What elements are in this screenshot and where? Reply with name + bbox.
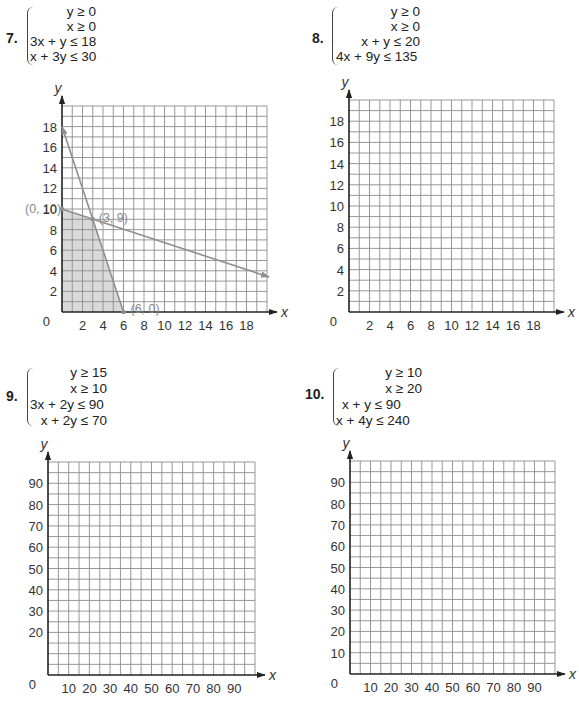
x-tick-label: 30	[103, 681, 117, 696]
y-tick-label: 10	[330, 199, 344, 214]
y-tick-label: 30	[29, 604, 43, 619]
y-tick-label: 6	[50, 243, 57, 258]
y-tick-label: 60	[29, 540, 43, 555]
x-tick-label: 12	[178, 318, 192, 333]
grid-lines	[350, 461, 555, 674]
x-tick-label: 8	[427, 318, 434, 333]
x-tick-label: 40	[124, 681, 138, 696]
y-tick-label: 8	[50, 223, 57, 238]
y-tick-label: 12	[330, 178, 344, 193]
x-tick-label: 8	[140, 318, 147, 333]
vertex-label: (3, 9)	[99, 211, 128, 225]
origin-label: 0	[29, 677, 36, 692]
graph-9: 10203040506070809020304050607080900xy	[29, 436, 277, 696]
x-tick-label: 12	[465, 318, 479, 333]
vertex-point	[121, 310, 125, 314]
y-tick-label: 90	[29, 476, 43, 491]
y-tick-label: 14	[43, 161, 57, 176]
grid-lines	[48, 462, 255, 675]
y-tick-label: 10	[43, 202, 57, 217]
x-tick-label: 30	[404, 680, 418, 695]
x-tick-label: 10	[157, 318, 171, 333]
grid-lines	[62, 106, 267, 312]
y-axis-label: y	[342, 435, 351, 451]
x-tick-label: 70	[186, 681, 200, 696]
origin-label: 0	[331, 676, 338, 691]
x-axis-label: x	[280, 304, 289, 320]
y-tick-label: 8	[337, 220, 344, 235]
x-tick-label: 80	[206, 681, 220, 696]
y-tick-label: 70	[29, 519, 43, 534]
x-tick-label: 6	[407, 318, 414, 333]
x-axis-label: x	[567, 304, 576, 320]
grid-lines	[349, 100, 554, 312]
y-tick-label: 50	[331, 561, 345, 576]
x-tick-label: 14	[198, 318, 212, 333]
x-tick-label: 18	[239, 318, 253, 333]
x-tick-label: 70	[486, 680, 500, 695]
graph-8: 24681012141618246810121416180xy	[330, 74, 576, 333]
x-tick-label: 80	[507, 680, 521, 695]
x-tick-label: 4	[386, 318, 393, 333]
y-tick-label: 2	[337, 284, 344, 299]
origin-label: 0	[43, 314, 50, 329]
y-tick-label: 40	[331, 582, 345, 597]
vertex-point	[91, 217, 95, 221]
x-tick-label: 18	[526, 318, 540, 333]
y-tick-label: 12	[43, 181, 57, 196]
y-tick-label: 4	[337, 263, 344, 278]
y-tick-label: 80	[331, 497, 345, 512]
x-tick-label: 60	[466, 680, 480, 695]
x-tick-label: 2	[79, 318, 86, 333]
x-tick-label: 20	[82, 681, 96, 696]
y-tick-label: 20	[29, 625, 43, 640]
y-tick-label: 10	[331, 646, 345, 661]
y-tick-label: 18	[43, 120, 57, 135]
y-axis-label: y	[40, 436, 49, 452]
x-axis-label: x	[268, 667, 277, 683]
vertex-label: (6, 0)	[131, 302, 160, 316]
y-tick-label: 20	[331, 624, 345, 639]
x-tick-label: 10	[61, 681, 75, 696]
x-tick-label: 4	[99, 318, 106, 333]
y-tick-label: 70	[331, 518, 345, 533]
coordinate-grids: (0, 10)(3, 9)(6, 0)246810121416182468101…	[0, 0, 579, 702]
x-tick-label: 40	[425, 680, 439, 695]
y-tick-label: 4	[50, 264, 57, 279]
y-tick-label: 2	[50, 284, 57, 299]
x-tick-label: 6	[120, 318, 127, 333]
x-tick-label: 90	[227, 681, 241, 696]
y-tick-label: 16	[43, 140, 57, 155]
y-tick-label: 80	[29, 498, 43, 513]
y-tick-label: 14	[330, 157, 344, 172]
y-tick-label: 60	[331, 539, 345, 554]
x-tick-label: 16	[506, 318, 520, 333]
x-tick-label: 50	[445, 680, 459, 695]
y-tick-label: 18	[330, 114, 344, 129]
y-tick-label: 90	[331, 475, 345, 490]
graph-10: 1020304050607080901020304050607080900xy	[331, 435, 577, 695]
y-tick-label: 40	[29, 583, 43, 598]
x-tick-label: 10	[363, 680, 377, 695]
x-tick-label: 2	[366, 318, 373, 333]
y-axis-label: y	[54, 80, 63, 96]
y-tick-label: 6	[337, 241, 344, 256]
x-tick-label: 20	[384, 680, 398, 695]
x-tick-label: 50	[144, 681, 158, 696]
x-tick-label: 10	[444, 318, 458, 333]
x-tick-label: 14	[485, 318, 499, 333]
y-tick-label: 50	[29, 562, 43, 577]
y-axis-label: y	[341, 74, 350, 90]
y-tick-label: 30	[331, 603, 345, 618]
x-tick-label: 16	[219, 318, 233, 333]
x-tick-label: 90	[527, 680, 541, 695]
y-tick-label: 16	[330, 135, 344, 150]
x-axis-label: x	[568, 666, 577, 682]
origin-label: 0	[330, 314, 337, 329]
graph-7: (0, 10)(3, 9)(6, 0)246810121416182468101…	[25, 80, 289, 333]
x-tick-label: 60	[165, 681, 179, 696]
